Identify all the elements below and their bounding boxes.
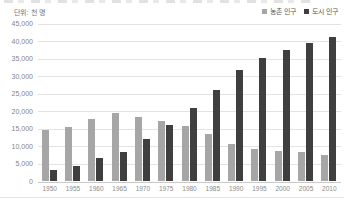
y-tick-label: 5,000 bbox=[0, 160, 33, 168]
bar-rural-1950 bbox=[42, 130, 49, 181]
bar-rural-2005 bbox=[298, 152, 305, 181]
bar-urban-1950 bbox=[50, 170, 57, 181]
bar-urban-1995 bbox=[259, 58, 266, 181]
gridline bbox=[38, 41, 341, 42]
bar-rural-2000 bbox=[275, 151, 282, 182]
y-tick-label: 10,000 bbox=[0, 143, 33, 151]
y-tick-label: 30,000 bbox=[0, 73, 33, 81]
y-tick-label: 35,000 bbox=[0, 55, 33, 63]
x-axis-labels: 1950195519601965197019751980198519901995… bbox=[38, 185, 341, 195]
bar-urban-1990 bbox=[236, 70, 243, 181]
bar-urban-1975 bbox=[166, 125, 173, 181]
y-tick-label: 20,000 bbox=[0, 108, 33, 116]
chart-legend: 농촌 인구도시 인구 bbox=[262, 6, 338, 16]
bar-rural-1975 bbox=[158, 121, 165, 181]
y-tick-label: 45,000 bbox=[0, 20, 33, 28]
y-tick-label: 15,000 bbox=[0, 125, 33, 133]
y-axis-labels: 45,00040,00035,00030,00025,00020,00015,0… bbox=[0, 24, 33, 182]
bar-rural-1970 bbox=[135, 117, 142, 181]
legend-label: 도시 인구 bbox=[312, 6, 338, 16]
x-tick-label-2010: 2010 bbox=[314, 185, 344, 192]
y-tick-label: 0 bbox=[0, 178, 33, 186]
bar-urban-1960 bbox=[96, 158, 103, 181]
gridline bbox=[38, 76, 341, 77]
chart-panel: 단위: 천 명 농촌 인구도시 인구 45,00040,00035,00030,… bbox=[0, 0, 344, 203]
bar-rural-1965 bbox=[112, 113, 119, 181]
legend-swatch-icon bbox=[304, 9, 309, 14]
bar-urban-1980 bbox=[190, 108, 197, 181]
unit-label: 단위: 천 명 bbox=[14, 7, 45, 17]
x-axis-line bbox=[38, 182, 341, 183]
bar-rural-1980 bbox=[182, 126, 189, 182]
bottom-divider bbox=[0, 197, 344, 198]
bar-urban-2000 bbox=[283, 50, 290, 181]
y-tick-label: 40,000 bbox=[0, 38, 33, 46]
legend-item-urban: 도시 인구 bbox=[304, 6, 338, 16]
bar-urban-2005 bbox=[306, 43, 313, 181]
y-tick-label: 25,000 bbox=[0, 90, 33, 98]
gridline bbox=[38, 94, 341, 95]
bar-rural-2010 bbox=[321, 155, 328, 181]
bar-rural-1995 bbox=[251, 149, 258, 181]
bar-urban-1965 bbox=[120, 152, 127, 182]
bar-rural-1955 bbox=[65, 127, 72, 181]
bar-urban-1970 bbox=[143, 139, 150, 182]
bar-urban-1985 bbox=[213, 90, 220, 181]
bar-urban-1955 bbox=[73, 166, 80, 181]
bar-rural-1985 bbox=[205, 134, 212, 181]
legend-item-rural: 농촌 인구 bbox=[262, 6, 296, 16]
bar-rural-1990 bbox=[228, 144, 235, 181]
gridline bbox=[38, 59, 341, 60]
legend-label: 농촌 인구 bbox=[270, 6, 296, 16]
bar-rural-1960 bbox=[88, 119, 95, 182]
bar-urban-2010 bbox=[329, 37, 336, 181]
plot-area bbox=[38, 24, 341, 182]
gridline bbox=[38, 24, 341, 25]
cropped-text-remnant bbox=[4, 0, 314, 3]
legend-swatch-icon bbox=[262, 9, 267, 14]
